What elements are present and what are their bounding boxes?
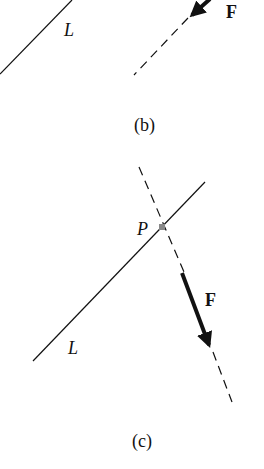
force-label-b: F [226, 2, 237, 22]
line-l-b [0, 0, 72, 74]
panel-b: L F (b) [0, 0, 237, 136]
line-l-label-c: L [67, 338, 78, 358]
point-p [159, 224, 165, 230]
panel-c: L F P (c) [33, 167, 232, 452]
line-of-action-b [134, 18, 188, 75]
caption-b: (b) [134, 115, 155, 136]
diagram-canvas: L F (b) L F P (c) [0, 0, 264, 469]
line-of-action-c-lower [213, 352, 232, 402]
line-l-c [33, 182, 205, 361]
force-label-c: F [205, 290, 216, 310]
force-arrow-b [192, 0, 210, 15]
caption-c: (c) [132, 431, 152, 452]
line-l-label-b: L [63, 20, 74, 40]
point-p-label: P [136, 219, 148, 239]
